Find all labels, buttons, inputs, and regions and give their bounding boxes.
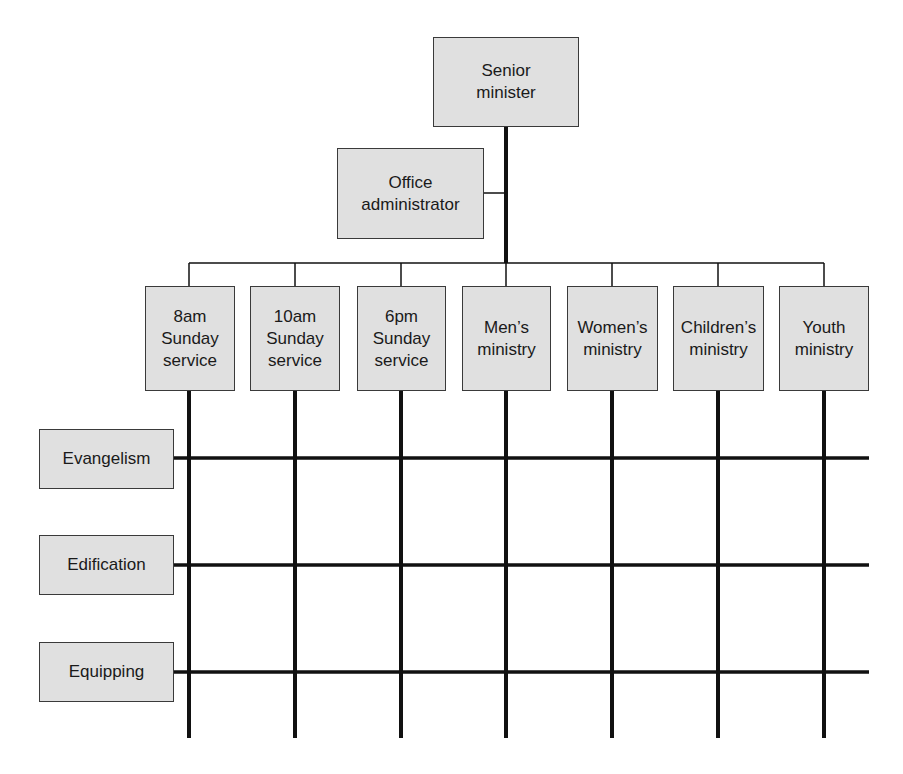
- column-8am-service: 8am Sunday service: [145, 286, 235, 391]
- column-womens-ministry: Women’s ministry: [567, 286, 658, 391]
- row-edification: Edification: [39, 535, 174, 595]
- column-6pm-service: 6pm Sunday service: [357, 286, 446, 391]
- office-administrator-box: Office administrator: [337, 148, 484, 239]
- column-childrens-ministry: Children’s ministry: [673, 286, 764, 391]
- column-mens-ministry: Men’s ministry: [462, 286, 551, 391]
- senior-minister-box: Senior minister: [433, 37, 579, 127]
- row-equipping: Equipping: [39, 642, 174, 702]
- column-youth-ministry: Youth ministry: [779, 286, 869, 391]
- row-evangelism: Evangelism: [39, 429, 174, 489]
- column-10am-service: 10am Sunday service: [250, 286, 340, 391]
